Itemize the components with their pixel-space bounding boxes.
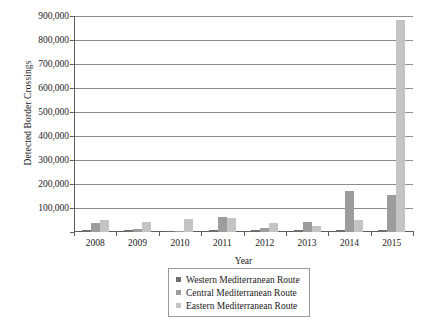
legend-label: Central Mediterranean Route <box>186 288 297 298</box>
y-tick-mark <box>70 40 75 41</box>
y-tick-label: 200,000 <box>38 179 69 189</box>
bar <box>345 191 354 232</box>
bar <box>91 223 100 232</box>
bar <box>166 231 175 232</box>
gridline <box>74 16 413 17</box>
bar <box>396 20 405 232</box>
x-tick-mark <box>201 231 202 236</box>
x-tick-mark <box>413 231 414 236</box>
bar <box>294 230 303 232</box>
x-tick-mark <box>74 231 75 236</box>
x-tick-label: 2009 <box>128 238 147 248</box>
bar <box>260 228 269 232</box>
chart-legend: Western Mediterranean RouteCentral Medit… <box>168 268 310 317</box>
y-tick-mark <box>70 64 75 65</box>
bar <box>336 230 345 232</box>
bar <box>133 229 142 232</box>
gridline <box>74 40 413 41</box>
bar <box>142 222 151 232</box>
bar <box>175 231 184 232</box>
gridline <box>74 160 413 161</box>
gridline <box>74 208 413 209</box>
bar <box>269 223 278 232</box>
bar <box>251 230 260 232</box>
x-tick-mark <box>328 231 329 236</box>
x-tick-label: 2014 <box>340 238 359 248</box>
y-axis-title: Detected Border Crossings <box>23 23 33 203</box>
gridline <box>74 112 413 113</box>
x-tick-mark <box>244 231 245 236</box>
gridline <box>74 136 413 137</box>
y-tick-mark <box>70 136 75 137</box>
x-axis-title: Year <box>74 256 413 266</box>
gridline <box>74 64 413 65</box>
y-tick-mark <box>70 208 75 209</box>
y-tick-label: 800,000 <box>38 35 69 45</box>
x-tick-mark <box>286 231 287 236</box>
bar <box>124 230 133 232</box>
chart-figure: Detected Border Crossings 900,000800,000… <box>0 0 429 334</box>
plot-frame <box>74 16 413 232</box>
x-tick-label: 2010 <box>170 238 189 248</box>
bar <box>387 195 396 232</box>
y-tick-label: 900,000 <box>38 11 69 21</box>
bar <box>227 218 236 232</box>
bar <box>354 220 363 232</box>
bar <box>218 217 227 232</box>
legend-item: Eastern Mediterranean Route <box>176 299 300 312</box>
y-tick-label: 700,000 <box>38 59 69 69</box>
legend-swatch-icon <box>176 277 181 282</box>
gridline <box>74 184 413 185</box>
x-tick-label: 2013 <box>298 238 317 248</box>
y-tick-label: 500,000 <box>38 107 69 117</box>
y-tick-label: 300,000 <box>38 155 69 165</box>
legend-label: Western Mediterranean Route <box>186 275 300 285</box>
legend-label: Eastern Mediterranean Route <box>186 301 297 311</box>
legend-item: Central Mediterranean Route <box>176 286 300 299</box>
y-tick-label: 100,000 <box>38 203 69 213</box>
y-tick-mark <box>70 160 75 161</box>
plot-area: 900,000800,000700,000600,000500,000400,0… <box>74 16 413 232</box>
x-tick-mark <box>116 231 117 236</box>
y-tick-mark <box>70 88 75 89</box>
x-tick-label: 2015 <box>382 238 401 248</box>
y-tick-mark <box>70 112 75 113</box>
bar <box>312 226 321 232</box>
bar <box>303 222 312 232</box>
bar <box>209 230 218 232</box>
y-tick-label: 400,000 <box>38 131 69 141</box>
x-tick-label: 2011 <box>213 238 232 248</box>
legend-swatch-icon <box>176 290 181 295</box>
x-tick-mark <box>159 231 160 236</box>
x-tick-mark <box>371 231 372 236</box>
gridline <box>74 88 413 89</box>
bar <box>100 220 109 232</box>
bar <box>82 230 91 232</box>
y-tick-mark <box>70 16 75 17</box>
bar <box>184 219 193 232</box>
x-tick-label: 2008 <box>86 238 105 248</box>
legend-swatch-icon <box>176 303 181 308</box>
x-tick-label: 2012 <box>255 238 274 248</box>
legend-item: Western Mediterranean Route <box>176 273 300 286</box>
y-tick-label: 600,000 <box>38 83 69 93</box>
bar <box>378 230 387 232</box>
y-tick-mark <box>70 184 75 185</box>
